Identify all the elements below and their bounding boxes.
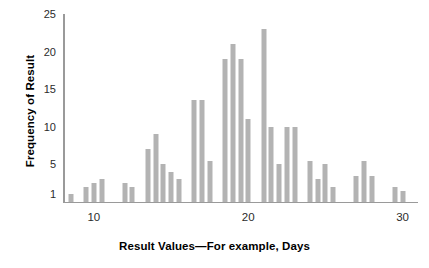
bar bbox=[99, 179, 104, 202]
x-axis-title: Result Values—For example, Days bbox=[0, 240, 429, 252]
bar bbox=[130, 187, 135, 202]
x-tick-label: 10 bbox=[87, 211, 100, 223]
bar bbox=[84, 187, 89, 202]
bar bbox=[269, 127, 274, 202]
bar bbox=[400, 191, 405, 202]
bar bbox=[354, 176, 359, 202]
bar bbox=[284, 127, 289, 202]
bar bbox=[153, 134, 158, 202]
y-tick-label: 10 bbox=[44, 121, 56, 133]
bar bbox=[161, 164, 166, 202]
bar bbox=[176, 179, 181, 202]
bar bbox=[68, 194, 73, 202]
bar bbox=[307, 161, 312, 202]
bar bbox=[230, 44, 235, 202]
bar bbox=[261, 29, 266, 202]
bar bbox=[223, 59, 228, 202]
y-tick-label: 1 bbox=[50, 188, 56, 200]
bar bbox=[169, 172, 174, 202]
bar bbox=[361, 161, 366, 202]
bar bbox=[246, 119, 251, 202]
bar bbox=[331, 187, 336, 202]
bar bbox=[192, 100, 197, 202]
bar bbox=[199, 100, 204, 202]
histogram-chart: Frequency of Result 1510152025 102030 Re… bbox=[0, 0, 429, 268]
plot-area: 1510152025 102030 bbox=[63, 14, 418, 202]
bar bbox=[145, 149, 150, 202]
y-axis-title: Frequency of Result bbox=[24, 26, 36, 196]
y-tick-label: 20 bbox=[44, 46, 56, 58]
y-tick-label: 25 bbox=[44, 8, 56, 20]
bar bbox=[207, 161, 212, 202]
bar bbox=[122, 183, 127, 202]
y-axis-line bbox=[63, 14, 65, 202]
x-tick-label: 30 bbox=[396, 211, 409, 223]
bar bbox=[392, 187, 397, 202]
x-axis-line bbox=[63, 202, 418, 203]
bar bbox=[315, 179, 320, 202]
bar bbox=[292, 127, 297, 202]
y-tick-label: 5 bbox=[50, 158, 56, 170]
x-tick-label: 20 bbox=[242, 211, 255, 223]
bar bbox=[238, 59, 243, 202]
bar bbox=[369, 176, 374, 202]
bar bbox=[323, 164, 328, 202]
bar bbox=[91, 183, 96, 202]
y-tick-label: 15 bbox=[44, 83, 56, 95]
bar bbox=[277, 164, 282, 202]
